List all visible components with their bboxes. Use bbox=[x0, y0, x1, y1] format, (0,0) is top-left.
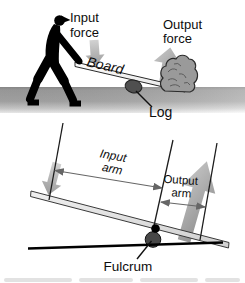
person-hands bbox=[77, 59, 83, 65]
pivot-point-dot bbox=[151, 224, 160, 233]
lever-diagram-figure: Input force Output force Board Log bbox=[0, 0, 245, 283]
input-force-label: Input force bbox=[70, 10, 103, 40]
log-label: Log bbox=[149, 104, 172, 120]
cropped-caption-remnant bbox=[4, 278, 240, 282]
top-lever-scene: Input force Output force Board Log bbox=[0, 10, 245, 120]
fulcrum-pointer-line bbox=[137, 241, 152, 259]
fulcrum-label: Fulcrum bbox=[104, 259, 153, 274]
bottom-lever-schematic: Input arm Output arm Fulcrum bbox=[4, 123, 240, 282]
figure-canvas: Input force Output force Board Log bbox=[0, 0, 245, 283]
output-force-label: Output force bbox=[163, 17, 206, 46]
fulcrum-guide-line bbox=[152, 140, 174, 237]
input-arm-label: Input arm bbox=[96, 146, 131, 178]
ground-line bbox=[28, 243, 223, 249]
